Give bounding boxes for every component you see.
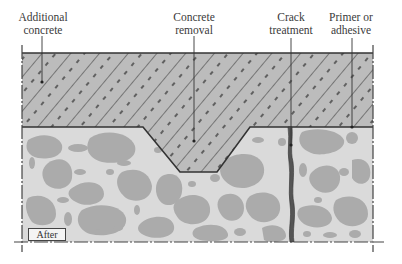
label-line: removal — [164, 24, 224, 37]
label-line: treatment — [260, 24, 322, 37]
label-concrete-removal: Concrete removal — [164, 11, 224, 37]
label-line: Crack — [260, 11, 322, 24]
label-line: Additional — [10, 11, 76, 24]
label-line: adhesive — [320, 24, 382, 37]
label-additional-concrete: Additional concrete — [10, 11, 76, 37]
label-crack-treatment: Crack treatment — [260, 11, 322, 37]
label-line: Concrete — [164, 11, 224, 24]
state-badge-after: After — [28, 228, 66, 241]
concrete-repair-diagram — [0, 0, 402, 264]
label-primer-adhesive: Primer or adhesive — [320, 11, 382, 37]
label-line: concrete — [10, 24, 76, 37]
label-line: Primer or — [320, 11, 382, 24]
